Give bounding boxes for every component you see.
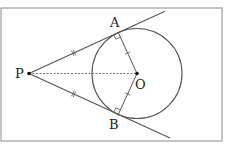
point-P-dot [27, 72, 31, 76]
tangent-line-PB [29, 74, 170, 139]
point-O-dot [135, 72, 139, 76]
label-P: P [15, 66, 24, 81]
label-B: B [109, 117, 119, 132]
diagram-canvas: P A B O [0, 0, 229, 144]
tangent-line-PA [29, 11, 165, 73]
label-A: A [109, 15, 120, 30]
tangent-diagram: P A B O [0, 0, 229, 144]
label-O: O [135, 77, 146, 92]
